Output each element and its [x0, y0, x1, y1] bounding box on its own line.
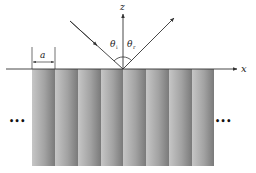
stripe-3 — [78, 69, 101, 166]
continuation-dots-right: ••• — [215, 117, 232, 126]
stripe-6 — [146, 69, 169, 166]
period-label: a — [40, 50, 45, 60]
incident-angle-label: θ i — [110, 39, 118, 50]
continuation-dots-left: ••• — [9, 117, 26, 126]
stripe-5 — [123, 69, 146, 166]
x-axis-label: x — [241, 63, 247, 74]
svg-text:r: r — [133, 44, 136, 50]
reflected-angle-label: θ r — [127, 39, 136, 50]
grating-stripes — [32, 69, 214, 166]
stripe-8 — [192, 69, 214, 166]
grating-diagram: x z θ i θ r a ••• ••• — [0, 0, 256, 173]
stripe-4 — [101, 69, 123, 166]
incident-ray-arrow — [70, 21, 97, 46]
stripe-2 — [55, 69, 78, 166]
z-axis-label: z — [119, 2, 125, 12]
stripe-7 — [169, 69, 192, 166]
stripe-1 — [32, 69, 55, 166]
svg-text:i: i — [116, 44, 118, 50]
